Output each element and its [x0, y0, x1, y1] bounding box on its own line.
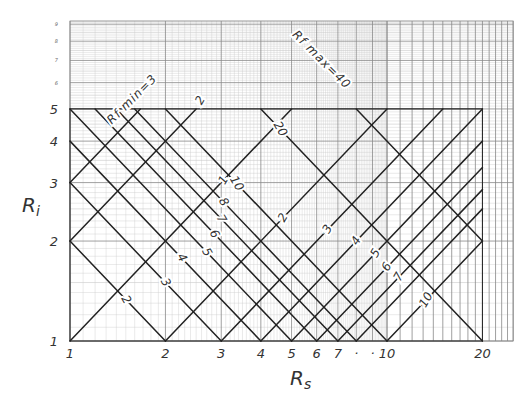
x-tick-label: ·	[370, 346, 374, 361]
x-tick-label: 20	[474, 346, 491, 361]
y-tick-label: 5	[50, 102, 58, 117]
y-minor-tick-label: 6	[55, 80, 58, 86]
y-tick-label: 1	[50, 334, 58, 349]
x-tick-label: 2	[161, 346, 169, 361]
y-axis-title: Ri	[22, 193, 40, 219]
x-tick-label: ·	[354, 346, 358, 361]
x-tick-label: 1	[66, 346, 74, 361]
x-axis-title: Rs	[290, 366, 311, 392]
y-tick-label: 3	[50, 176, 58, 191]
y-minor-tick-label: 7	[55, 57, 59, 63]
x-tick-label: 7	[334, 346, 343, 361]
x-tick-label: 10	[379, 346, 396, 361]
y-minor-tick-label: 8	[55, 38, 58, 44]
x-tick-label: 3	[217, 346, 225, 361]
y-tick-label: 4	[50, 134, 58, 149]
nomogram-chart: 234567810202123456710Rf min=3Rf max=40 1…	[0, 0, 526, 406]
annotation: Rf max=40	[290, 28, 354, 92]
x-tick-label: 4	[257, 346, 265, 361]
line-label-ratio: 2	[192, 93, 208, 107]
y-minor-tick-label: 9	[55, 21, 58, 27]
y-tick-label: 2	[50, 234, 58, 249]
axis-ticks: 1234567··1020123456789	[50, 21, 491, 361]
x-tick-label: 6	[313, 346, 321, 361]
x-tick-label: 5	[287, 346, 295, 361]
